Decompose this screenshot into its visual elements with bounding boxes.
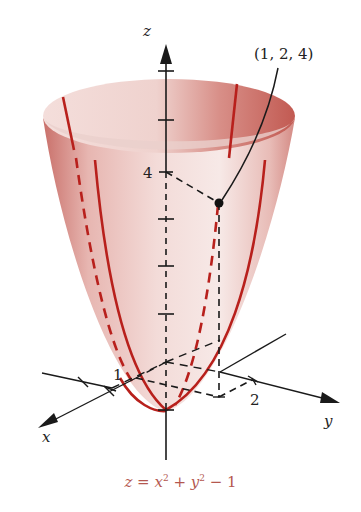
- z-axis-arrow-icon: [160, 44, 172, 64]
- x-ticks: [78, 377, 116, 396]
- equation-caption: z = x2 + y2 − 1: [0, 473, 361, 491]
- point-label: (1, 2, 4): [254, 45, 313, 63]
- x-axis-label: x: [42, 428, 51, 446]
- y-axis-label: y: [323, 412, 333, 430]
- y-axis-arrow-icon: [320, 392, 340, 403]
- x-tick-label: 1: [113, 366, 123, 384]
- paraboloid-figure: z 4 (1, 2, 4) 1 2 x y: [0, 0, 361, 512]
- equation-equals: =: [132, 473, 154, 491]
- y-tick-label: 2: [250, 391, 260, 409]
- equation-plus: +: [169, 473, 191, 491]
- y-ticks: [248, 376, 258, 385]
- equation-x: x: [154, 473, 162, 491]
- z-axis-label: z: [142, 22, 151, 40]
- equation-minus-one: − 1: [205, 473, 237, 491]
- z-tick-label: 4: [143, 164, 153, 182]
- paraboloid-surface: [43, 118, 295, 412]
- x-axis-arrow-icon: [38, 413, 58, 428]
- equation-y: y: [191, 473, 199, 491]
